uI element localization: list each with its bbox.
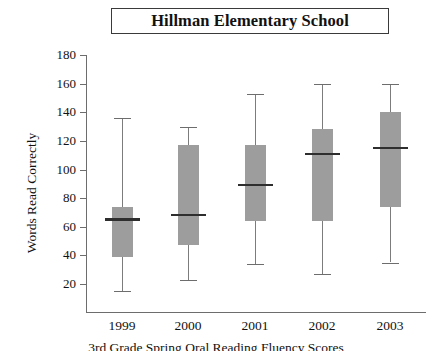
y-tick-label-120: 120 [44,133,76,149]
median-line [171,214,206,216]
lower-whisker-line [255,221,256,264]
y-tick-label-180: 180 [44,47,76,63]
box-iqr-rect [112,207,133,257]
x-axis-line [86,312,426,313]
median-line [305,153,340,155]
lower-whisker-cap [314,274,331,275]
chart-screenshot: Hillman Elementary School 18016014012010… [0,0,432,351]
lower-whisker-cap [247,264,264,265]
upper-whisker-line [255,94,256,146]
y-tick-140 [80,112,87,113]
y-tick-120 [80,141,87,142]
upper-whisker-cap [180,127,197,128]
box-iqr-rect [178,145,199,245]
y-tick-80 [80,198,87,199]
box-plot-figure: 18016014012010080604020 Words Read Corre… [0,0,432,351]
y-tick-160 [80,84,87,85]
x-tick-label-2002: 2002 [287,318,357,334]
median-line [373,147,408,149]
figure-caption: 3rd Grade Spring Oral Reading Fluency Sc… [0,340,432,351]
upper-whisker-line [322,84,323,130]
y-tick-label-140: 140 [44,104,76,120]
x-tick-label-2001: 2001 [220,318,290,334]
y-tick-180 [80,55,87,56]
y-tick-label-60: 60 [44,219,76,235]
x-tick-label-1999: 1999 [87,318,157,334]
upper-whisker-line [122,118,123,207]
x-tick-label-2000: 2000 [153,318,223,334]
upper-whisker-cap [382,84,399,85]
lower-whisker-line [122,257,123,291]
median-line [238,184,273,186]
y-tick-40 [80,255,87,256]
lower-whisker-line [188,245,189,279]
upper-whisker-line [390,84,391,113]
upper-whisker-cap [247,94,264,95]
box-iqr-rect [380,112,401,207]
y-tick-label-40: 40 [44,247,76,263]
y-tick-label-20: 20 [44,276,76,292]
y-axis-line [86,55,87,313]
lower-whisker-cap [180,280,197,281]
y-tick-60 [80,227,87,228]
upper-whisker-line [188,127,189,146]
y-tick-100 [80,170,87,171]
y-tick-20 [80,284,87,285]
upper-whisker-cap [314,84,331,85]
lower-whisker-line [322,221,323,274]
x-tick-label-2003: 2003 [355,318,425,334]
lower-whisker-line [390,207,391,263]
y-axis-title: Words Read Correctly [24,93,40,293]
median-line [105,218,140,220]
y-tick-label-100: 100 [44,162,76,178]
box-iqr-rect [312,129,333,221]
y-tick-label-160: 160 [44,76,76,92]
lower-whisker-cap [382,263,399,264]
y-tick-label-80: 80 [44,190,76,206]
upper-whisker-cap [114,118,131,119]
lower-whisker-cap [114,291,131,292]
